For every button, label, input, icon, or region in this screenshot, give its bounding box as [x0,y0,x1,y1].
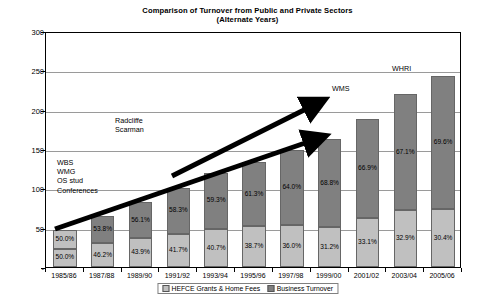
x-tick-label: 1999/00 [316,272,341,279]
x-tick-label: 2005/06 [429,272,454,279]
x-tick-mark [158,268,159,272]
chart-container: Comparison of Turnover from Public and P… [0,0,495,307]
x-tick-mark [272,268,273,272]
x-tick-mark [45,268,46,272]
x-tick-label: 1995/96 [240,272,265,279]
x-tick-label: 2003/04 [392,272,417,279]
legend-label-hefce: HEFCE Grants & Home Fees [171,285,260,292]
x-tick-mark [196,268,197,272]
x-tick-mark [83,268,84,272]
chart-title: Comparison of Turnover from Public and P… [0,6,495,25]
x-tick-label: 1997/98 [278,272,303,279]
legend-item-hefce[interactable]: HEFCE Grants & Home Fees [162,285,260,292]
x-tick-mark [385,268,386,272]
x-tick-mark [348,268,349,272]
x-tick-label: 1991/92 [165,272,190,279]
x-tick-label: 1987/88 [89,272,114,279]
legend-swatch-icon-business [267,285,274,292]
legend-swatch-icon-hefce [162,285,169,292]
x-tick-mark [461,268,462,272]
x-tick-mark [121,268,122,272]
annotation-radcliffe-scarman: Radcliffe Scarman [115,116,144,134]
annotation-wms: WMS [332,84,350,93]
legend-label-business: Business Turnover [277,285,333,292]
chart-legend: HEFCE Grants & Home Fees Business Turnov… [157,283,338,294]
legend-item-business[interactable]: Business Turnover [267,285,333,292]
chart-title-line1: Comparison of Turnover from Public and P… [142,6,352,15]
annotation-wbs-group: WBS WMG OS stud Conferences [57,158,98,195]
x-tick-label: 1985/86 [51,272,76,279]
x-tick-mark [423,268,424,272]
x-tick-label: 2001/02 [354,272,379,279]
x-tick-mark [310,268,311,272]
chart-subtitle: (Alternate Years) [0,15,495,24]
x-tick-label: 1993/94 [203,272,228,279]
x-tick-mark [234,268,235,272]
x-tick-label: 1989/90 [127,272,152,279]
annotation-whri: WHRI [392,64,411,73]
